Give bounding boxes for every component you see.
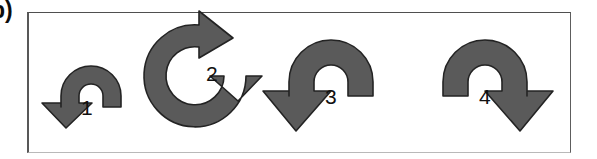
figure-panel: b) 1 2 3 4 (0, 0, 597, 159)
arrow-4-glyph (443, 40, 553, 131)
arrow-diagram-canvas (0, 0, 597, 159)
arrow-4-number-label: 4 (479, 86, 491, 107)
arrow-2-number-label: 2 (206, 63, 218, 84)
arrow-2-glyph (144, 11, 262, 127)
arrow-3-glyph (263, 40, 373, 131)
arrow-1-number-label: 1 (81, 97, 93, 118)
arrow-3-number-label: 3 (325, 86, 337, 107)
